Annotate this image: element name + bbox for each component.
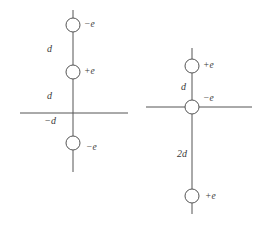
right-charge-configuration: +e −e +e d 2d bbox=[146, 48, 252, 214]
figure-root: −e +e −e d d −d +e −e +e d 2d bbox=[0, 0, 263, 226]
right-top-charge-circle bbox=[185, 59, 199, 73]
right-center-charge-label: −e bbox=[203, 93, 214, 103]
right-center-charge-circle bbox=[185, 100, 199, 114]
left-charge-configuration: −e +e −e d d −d bbox=[20, 10, 128, 172]
right-distance-top-label: d bbox=[181, 81, 187, 92]
left-distance-top-label: d bbox=[47, 43, 53, 54]
right-top-charge-label: +e bbox=[203, 60, 214, 70]
left-top-charge-circle bbox=[66, 18, 80, 32]
left-top-charge-label: −e bbox=[84, 19, 95, 29]
right-bottom-charge-label: +e bbox=[205, 191, 216, 201]
right-distance-bottom-label: 2d bbox=[177, 148, 188, 159]
left-bottom-charge-circle bbox=[66, 136, 80, 150]
left-middle-charge-label: +e bbox=[84, 66, 95, 76]
left-distance-middle-label: d bbox=[47, 90, 53, 101]
left-distance-below-axis-label: −d bbox=[44, 115, 57, 126]
left-middle-charge-circle bbox=[66, 65, 80, 79]
charge-diagram-canvas: −e +e −e d d −d +e −e +e d 2d bbox=[0, 0, 263, 226]
right-bottom-charge-circle bbox=[185, 189, 199, 203]
left-bottom-charge-label: −e bbox=[86, 142, 97, 152]
